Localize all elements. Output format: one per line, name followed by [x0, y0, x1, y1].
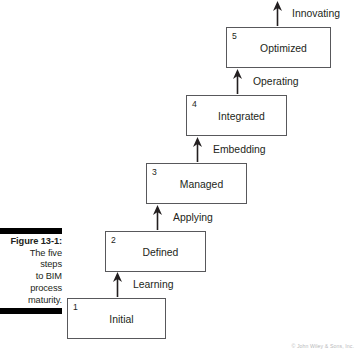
arrow-up-applying — [152, 205, 163, 230]
transition-label-embedding: Embedding — [213, 143, 266, 156]
stage-number-1: 1 — [73, 302, 78, 312]
stage-number-5: 5 — [232, 31, 237, 41]
stage-number-3: 3 — [152, 167, 157, 177]
stage-label-initial: Initial — [68, 312, 165, 325]
transition-label-applying: Applying — [173, 211, 213, 224]
stage-label-optimized: Optimized — [227, 41, 330, 54]
stage-label-integrated: Integrated — [187, 109, 286, 122]
stage-box-integrated: 4 Integrated — [186, 95, 287, 136]
stage-box-initial: 1 Initial — [67, 298, 166, 339]
stage-label-defined: Defined — [106, 245, 205, 258]
stage-box-defined: 2 Defined — [105, 231, 206, 272]
transition-label-innovating: Innovating — [292, 7, 340, 20]
caption-line-5: maturity. — [0, 295, 62, 307]
figure-caption: Figure 13-1: The five steps to BIM proce… — [0, 228, 64, 314]
figure-container: Figure 13-1: The five steps to BIM proce… — [0, 0, 358, 351]
transition-label-learning: Learning — [133, 278, 173, 291]
arrow-up-embedding — [192, 137, 203, 162]
caption-line-4: process — [0, 283, 62, 295]
copyright-credit: © John Wiley & Sons, Inc. — [291, 343, 354, 350]
transition-label-operating: Operating — [253, 75, 299, 88]
caption-text: Figure 13-1: The five steps to BIM proce… — [0, 234, 64, 308]
arrow-up-innovating — [272, 1, 283, 26]
caption-line-2: steps — [0, 259, 62, 271]
arrow-up-operating — [232, 69, 243, 94]
stage-box-optimized: 5 Optimized — [226, 27, 331, 68]
stage-box-managed: 3 Managed — [146, 163, 247, 204]
stage-label-managed: Managed — [147, 177, 246, 190]
caption-title: Figure 13-1: — [0, 236, 62, 248]
caption-rule-bottom — [0, 308, 62, 314]
caption-line-3: to BIM — [0, 271, 62, 283]
arrow-up-learning — [112, 272, 123, 297]
stage-number-4: 4 — [192, 99, 197, 109]
stage-number-2: 2 — [111, 235, 116, 245]
caption-line-1: The five — [0, 248, 62, 260]
